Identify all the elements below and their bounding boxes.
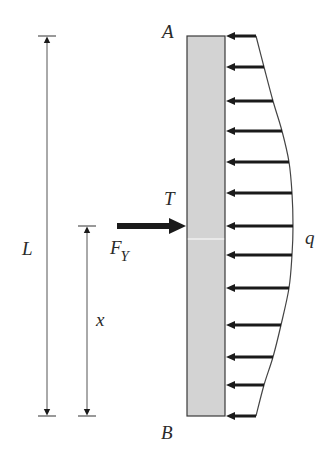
bar-member xyxy=(187,36,225,416)
label-L: L xyxy=(22,239,33,258)
dimension-L-arrowhead-top xyxy=(44,37,50,44)
dimension-x-arrowhead-top xyxy=(84,227,90,234)
load-arrow-head xyxy=(226,381,235,389)
label-FY: FY xyxy=(110,238,130,257)
label-T: T xyxy=(164,189,175,208)
load-arrow-head xyxy=(226,63,235,71)
load-arrow-head xyxy=(226,32,235,40)
label-Y-subscript: Y xyxy=(121,248,129,264)
load-arrow-head xyxy=(226,158,235,166)
dimension-x xyxy=(78,226,96,416)
load-arrow-head xyxy=(226,222,235,230)
dimension-x-arrowhead-bottom xyxy=(84,409,90,416)
load-arrow-head xyxy=(226,189,235,197)
load-arrow-head xyxy=(226,353,235,361)
load-arrow-head xyxy=(226,412,235,420)
label-F: F xyxy=(110,237,122,258)
label-A: A xyxy=(162,22,174,41)
distributed-load-q xyxy=(226,32,293,420)
bar-rectangle xyxy=(187,36,225,416)
dimension-L xyxy=(38,36,56,416)
force-arrow-FY xyxy=(117,218,186,234)
label-q: q xyxy=(305,228,315,247)
force-arrow-head xyxy=(169,218,186,234)
load-arrow-head xyxy=(226,321,235,329)
beam-diagram xyxy=(0,0,326,455)
load-arrow-head xyxy=(226,97,235,105)
dimension-L-arrowhead-bottom xyxy=(44,409,50,416)
label-x: x xyxy=(96,310,104,329)
load-arrow-head xyxy=(226,127,235,135)
load-arrow-head xyxy=(226,284,235,292)
load-arrow-head xyxy=(226,251,235,259)
label-B: B xyxy=(161,423,173,442)
